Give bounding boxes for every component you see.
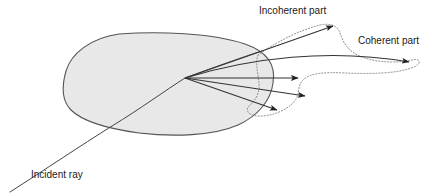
scattering-medium-blob <box>63 33 273 135</box>
label-incoherent-part: Incoherent part <box>259 5 326 16</box>
diagram-canvas: Incoherent part Coherent part Incident r… <box>0 0 435 196</box>
label-coherent-part: Coherent part <box>358 35 419 46</box>
label-incident-ray: Incident ray <box>31 169 83 180</box>
scattering-diagram-figure: Incoherent part Coherent part Incident r… <box>0 0 435 196</box>
